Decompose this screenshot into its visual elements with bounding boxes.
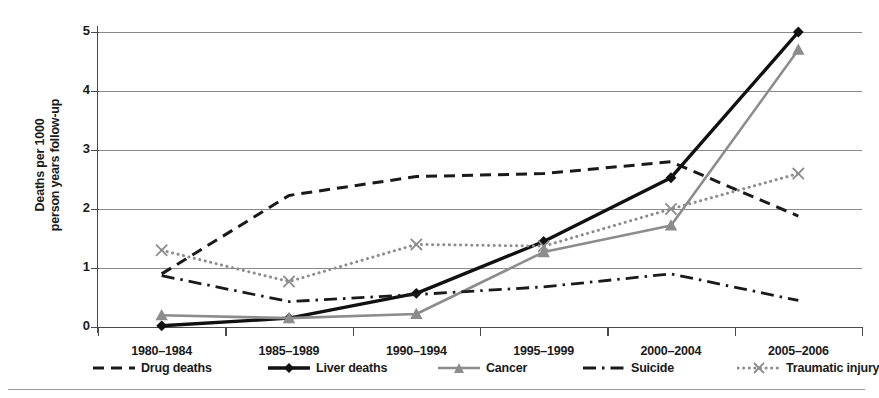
- x-tick-3: [480, 327, 481, 336]
- y-tick-label-5: 5: [72, 23, 90, 38]
- x-tick-4: [607, 327, 608, 336]
- series-line: [162, 274, 799, 302]
- y-axis-title-line2: person years follow-up: [48, 99, 62, 231]
- x-axis-label-1: 1985–1989: [229, 344, 349, 358]
- y-tick-label-0: 0: [72, 318, 90, 333]
- legend-item-liver-deaths[interactable]: Liver deaths: [267, 357, 387, 379]
- x-axis-label-3: 1995–1999: [484, 344, 604, 358]
- legend-label: Suicide: [631, 361, 674, 375]
- legend-label: Traumatic injury: [786, 361, 879, 375]
- y-axis-title: Deaths per 1000 person years follow-up: [33, 55, 63, 275]
- legend-key-icon: [437, 361, 481, 375]
- series-traumatic-injury: [156, 168, 804, 287]
- legend-key-icon: [267, 361, 311, 375]
- data-point: [156, 320, 167, 331]
- legend-key-icon: [737, 361, 781, 375]
- series-liver-deaths: [156, 27, 803, 332]
- x-tick-2: [353, 327, 354, 336]
- y-axis-title-line1: Deaths per 1000: [33, 119, 47, 212]
- data-point: [792, 44, 804, 55]
- y-tick-label-4: 4: [72, 82, 90, 97]
- series-drug-deaths: [162, 162, 799, 274]
- series-suicide: [162, 274, 799, 302]
- y-tick-label-2: 2: [72, 200, 90, 215]
- x-tick-0: [98, 327, 99, 336]
- x-tick-1: [225, 327, 226, 336]
- legend-label: Drug deaths: [141, 361, 212, 375]
- x-axis-label-4: 2000–2004: [611, 344, 731, 358]
- x-axis-label-2: 1990–1994: [356, 344, 476, 358]
- series-line: [162, 50, 799, 318]
- legend-key-icon: [92, 361, 136, 375]
- legend-label: Liver deaths: [316, 361, 387, 375]
- legend-key-icon: [582, 361, 626, 375]
- legend-item-cancer[interactable]: Cancer: [437, 357, 527, 379]
- x-tick-5: [735, 327, 736, 336]
- legend-label: Cancer: [486, 361, 527, 375]
- y-tick-label-1: 1: [72, 259, 90, 274]
- chart-legend: Drug deathsLiver deathsCancerSuicideTrau…: [92, 357, 852, 379]
- data-point: [793, 168, 804, 179]
- plot-area: 012345 1980–19841985–19891990–19941995–1…: [98, 32, 862, 327]
- legend-item-suicide[interactable]: Suicide: [582, 357, 674, 379]
- x-axis-label-0: 1980–1984: [102, 344, 222, 358]
- series-cancer: [155, 44, 804, 324]
- legend-item-traumatic-injury[interactable]: Traumatic injury: [737, 357, 879, 379]
- series-line: [162, 174, 799, 282]
- data-series-layer: [98, 32, 862, 327]
- x-axis-label-5: 2005–2006: [738, 344, 858, 358]
- data-point: [156, 245, 167, 256]
- legend-item-drug-deaths[interactable]: Drug deaths: [92, 357, 212, 379]
- footer-divider: [8, 389, 865, 390]
- y-tick-label-3: 3: [72, 141, 90, 156]
- series-line: [162, 162, 799, 274]
- x-tick-6: [862, 327, 863, 336]
